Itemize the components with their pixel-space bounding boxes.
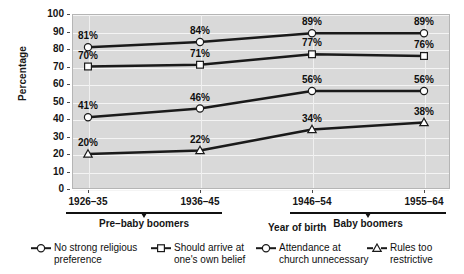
data-point-value-label: 89% xyxy=(402,16,446,27)
horizontal-gridline xyxy=(73,155,449,156)
y-axis-tick-label: 80 xyxy=(34,43,64,54)
y-axis-tick-mark xyxy=(67,84,70,85)
y-axis-tick-mark xyxy=(67,14,70,15)
y-axis-title: Percentage xyxy=(17,34,28,114)
y-axis-tick-mark xyxy=(67,119,70,120)
data-point-value-label: 77% xyxy=(290,37,334,48)
y-axis-tick-label: 20 xyxy=(34,148,64,159)
data-point-value-label: 38% xyxy=(402,106,446,117)
y-axis-tick-mark xyxy=(67,154,70,155)
data-point-value-label: 41% xyxy=(66,100,110,111)
horizontal-gridline xyxy=(73,15,449,16)
x-axis-tick-label: 1955–64 xyxy=(389,196,459,207)
horizontal-gridline xyxy=(73,50,449,51)
horizontal-gridline xyxy=(73,68,449,69)
horizontal-gridline xyxy=(73,138,449,139)
plot-area xyxy=(72,14,450,189)
legend-label-line2: preference xyxy=(54,254,137,266)
legend-label: Should arrive atone's own belief xyxy=(174,242,245,266)
data-point-value-label: 56% xyxy=(290,74,334,85)
data-point-value-label: 20% xyxy=(66,137,110,148)
x-axis-tick-label: 1926–35 xyxy=(53,196,123,207)
data-point-value-label: 89% xyxy=(290,16,334,27)
legend-label: Rules toorestrictive xyxy=(390,242,433,266)
legend-item: Should arrive atone's own belief xyxy=(150,242,245,266)
data-point-value-label: 71% xyxy=(178,48,222,59)
y-axis-tick-label: 50 xyxy=(34,96,64,107)
legend-label-line1: Attendance at xyxy=(279,242,341,253)
legend-marker-circle-icon xyxy=(255,243,277,254)
legend-label: Attendance atchurch unnecessary xyxy=(279,242,369,266)
x-axis-title: Year of birth xyxy=(268,222,326,233)
horizontal-gridline xyxy=(73,33,449,34)
y-axis-tick-label: 60 xyxy=(34,78,64,89)
data-point-value-label: 46% xyxy=(178,92,222,103)
horizontal-gridline xyxy=(73,190,449,191)
legend-marker-circle-icon xyxy=(30,243,52,254)
legend-item: Attendance atchurch unnecessary xyxy=(255,242,369,266)
legend-label-line1: Rules too xyxy=(390,242,432,253)
legend-label-line1: Should arrive at xyxy=(174,242,244,253)
chart-legend: No strong religiouspreferenceShould arri… xyxy=(0,240,464,274)
x-axis-tick-label: 1936–45 xyxy=(165,196,235,207)
data-point-value-label: 81% xyxy=(66,30,110,41)
horizontal-gridline xyxy=(73,173,449,174)
data-point-value-label: 34% xyxy=(290,113,334,124)
y-axis-tick-label: 0 xyxy=(34,183,64,194)
chart-root: Percentage 1009080706050403020100 1926–3… xyxy=(0,0,464,274)
data-point-value-label: 56% xyxy=(402,74,446,85)
y-axis-tick-label: 70 xyxy=(34,61,64,72)
legend-label-line2: one's own belief xyxy=(174,254,245,266)
data-point-value-label: 76% xyxy=(402,39,446,50)
group-label: Pre–baby boomers xyxy=(66,218,222,229)
legend-marker-square-icon xyxy=(150,243,172,254)
legend-label-line2: church unnecessary xyxy=(279,254,369,266)
legend-item: Rules toorestrictive xyxy=(366,242,433,266)
x-axis-tick-mark xyxy=(312,190,313,193)
y-axis-tick-label: 90 xyxy=(34,26,64,37)
x-axis-tick-mark xyxy=(424,190,425,193)
x-axis-tick-label: 1946–54 xyxy=(277,196,347,207)
y-axis-tick-mark xyxy=(67,189,70,190)
x-axis-tick-mark xyxy=(200,190,201,193)
data-point-value-label: 84% xyxy=(178,25,222,36)
y-axis-tick-mark xyxy=(67,67,70,68)
legend-item: No strong religiouspreference xyxy=(30,242,137,266)
horizontal-gridline xyxy=(73,85,449,86)
y-axis-tick-mark xyxy=(67,172,70,173)
y-axis-tick-label: 100 xyxy=(34,8,64,19)
x-axis-tick-mark xyxy=(88,190,89,193)
horizontal-gridline xyxy=(73,120,449,121)
data-point-value-label: 70% xyxy=(66,50,110,61)
y-axis-tick-label: 30 xyxy=(34,131,64,142)
legend-label-line2: restrictive xyxy=(390,254,433,266)
legend-label: No strong religiouspreference xyxy=(54,242,137,266)
legend-label-line1: No strong religious xyxy=(54,242,137,253)
legend-marker-triangle-icon xyxy=(366,243,388,254)
y-axis-tick-label: 40 xyxy=(34,113,64,124)
y-axis-tick-label: 10 xyxy=(34,166,64,177)
horizontal-gridline xyxy=(73,103,449,104)
data-point-value-label: 22% xyxy=(178,134,222,145)
